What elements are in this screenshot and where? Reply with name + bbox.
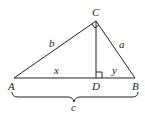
right-angle-mark-C bbox=[92, 24, 99, 28]
label-segment-x: x bbox=[53, 64, 59, 76]
right-triangle-diagram: C A D B b a x y c bbox=[0, 0, 145, 114]
label-side-b: b bbox=[49, 37, 55, 49]
label-point-C: C bbox=[92, 6, 100, 18]
label-point-A: A bbox=[7, 80, 15, 92]
label-point-B: B bbox=[132, 80, 139, 92]
label-side-a: a bbox=[119, 38, 125, 50]
label-point-D: D bbox=[91, 80, 100, 92]
right-angle-mark-D bbox=[96, 72, 102, 78]
label-side-c: c bbox=[71, 101, 76, 113]
label-segment-y: y bbox=[111, 64, 117, 76]
